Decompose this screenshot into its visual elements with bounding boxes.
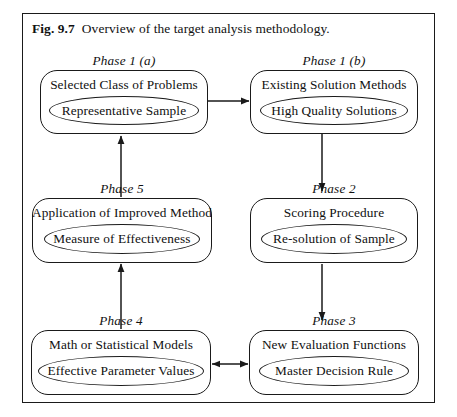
node-title-phase-1a: Selected Class of Problems bbox=[50, 76, 198, 93]
node-title-phase-2: Scoring Procedure bbox=[284, 204, 384, 221]
phase-label-phase-1a: Phase 1 (a) bbox=[40, 53, 208, 68]
node-title-phase-3: New Evaluation Functions bbox=[262, 336, 406, 353]
figure-caption: Fig. 9.7Overview of the target analysis … bbox=[32, 20, 422, 37]
node-phase-3[interactable]: New Evaluation Functions Master Decision… bbox=[249, 330, 419, 395]
node-ellipse-phase-1a[interactable]: Representative Sample bbox=[49, 96, 199, 125]
node-phase-5[interactable]: Application of Improved Method Measure o… bbox=[32, 198, 212, 263]
node-ellipse-label-phase-5: Measure of Effectiveness bbox=[53, 231, 190, 247]
phase-label-phase-5: Phase 5 bbox=[32, 181, 212, 196]
node-phase-1a[interactable]: Selected Class of Problems Representativ… bbox=[40, 70, 208, 134]
phase-label-phase-2: Phase 2 bbox=[250, 181, 418, 196]
node-ellipse-phase-5[interactable]: Measure of Effectiveness bbox=[44, 224, 200, 254]
node-ellipse-label-phase-1b: High Quality Solutions bbox=[271, 103, 397, 119]
node-ellipse-label-phase-2: Re-solution of Sample bbox=[273, 231, 395, 247]
node-ellipse-phase-3[interactable]: Master Decision Rule bbox=[259, 356, 409, 386]
phase-label-phase-3: Phase 3 bbox=[249, 313, 419, 328]
node-phase-2[interactable]: Scoring Procedure Re-solution of Sample bbox=[250, 198, 418, 263]
figure-container: Fig. 9.7Overview of the target analysis … bbox=[0, 0, 457, 417]
node-ellipse-label-phase-4: Effective Parameter Values bbox=[48, 363, 195, 379]
node-ellipse-label-phase-3: Master Decision Rule bbox=[275, 363, 393, 379]
node-ellipse-phase-2[interactable]: Re-solution of Sample bbox=[261, 224, 407, 254]
figure-label: Fig. 9.7 bbox=[32, 21, 75, 36]
node-ellipse-phase-4[interactable]: Effective Parameter Values bbox=[38, 356, 204, 386]
phase-label-phase-1b: Phase 1 (b) bbox=[250, 53, 418, 68]
node-ellipse-phase-1b[interactable]: High Quality Solutions bbox=[260, 96, 408, 125]
node-ellipse-label-phase-1a: Representative Sample bbox=[62, 103, 186, 119]
node-title-phase-1b: Existing Solution Methods bbox=[261, 76, 406, 93]
node-phase-1b[interactable]: Existing Solution Methods High Quality S… bbox=[250, 70, 418, 134]
node-title-phase-5: Application of Improved Method bbox=[32, 204, 212, 221]
figure-caption-text: Overview of the target analysis methodol… bbox=[82, 21, 330, 36]
node-title-phase-4: Math or Statistical Models bbox=[49, 336, 193, 353]
phase-label-phase-4: Phase 4 bbox=[31, 313, 211, 328]
node-phase-4[interactable]: Math or Statistical Models Effective Par… bbox=[31, 330, 211, 395]
